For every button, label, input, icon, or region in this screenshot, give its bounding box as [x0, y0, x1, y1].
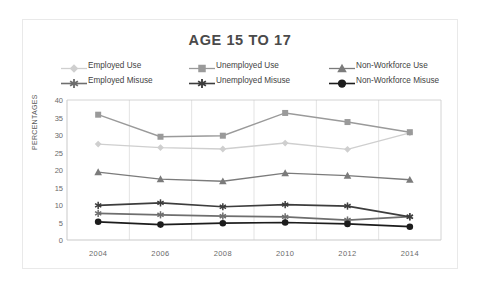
legend-item-unemployed-misuse[interactable]: Unemployed Misuse: [189, 73, 329, 88]
legend-item-employed-misuse[interactable]: Employed Misuse: [39, 73, 189, 88]
y-axis-tick-label: 0: [41, 236, 63, 245]
chart-legend: Employed Use Unemployed Use Non-Workforc…: [39, 58, 443, 88]
legend-item-non-workforce-misuse[interactable]: Non-Workforce Misuse: [329, 73, 443, 88]
y-axis-tick-label: 35: [41, 113, 63, 122]
y-axis-tick-label: 15: [41, 183, 63, 192]
legend-label: Employed Misuse: [87, 76, 153, 85]
x-axis-tick-label: 2006: [151, 249, 169, 258]
legend-label: Employed Use: [87, 61, 141, 70]
y-axis-tick-label: 40: [41, 96, 63, 105]
y-axis-tick-label: 30: [41, 131, 63, 140]
chart-svg: [23, 92, 459, 270]
legend-label: Non-Workforce Use: [355, 61, 428, 70]
legend-label: Unemployed Misuse: [215, 76, 290, 85]
legend-item-unemployed-use[interactable]: Unemployed Use: [189, 58, 329, 73]
y-axis-tick-label: 20: [41, 166, 63, 175]
legend-key-asterisk-icon: [61, 75, 87, 86]
y-axis-tick-label: 5: [41, 218, 63, 227]
x-axis-tick-label: 2008: [214, 249, 232, 258]
plot-area: PERCENTAGES 0510152025303540200420062008…: [23, 92, 459, 270]
chart-title: AGE 15 TO 17: [23, 32, 457, 48]
legend-key-circle-icon: [329, 75, 355, 86]
x-axis-tick-label: 2010: [276, 249, 294, 258]
legend-row: Employed Use Unemployed Use Non-Workforc…: [39, 58, 443, 73]
x-axis-tick-label: 2012: [338, 249, 356, 258]
legend-label: Unemployed Use: [215, 61, 279, 70]
legend-key-triangle-icon: [329, 60, 355, 71]
y-axis-tick-label: 10: [41, 201, 63, 210]
legend-item-employed-use[interactable]: Employed Use: [39, 58, 189, 73]
x-axis-tick-label: 2004: [89, 249, 107, 258]
legend-key-asterisk-icon: [189, 75, 215, 86]
legend-key-square-icon: [189, 60, 215, 71]
chart-card: AGE 15 TO 17 Employed Use Unemployed Use…: [22, 19, 458, 269]
y-axis-tick-label: 25: [41, 148, 63, 157]
legend-item-non-workforce-use[interactable]: Non-Workforce Use: [329, 58, 443, 73]
x-axis-tick-label: 2014: [401, 249, 419, 258]
legend-label: Non-Workforce Misuse: [355, 76, 439, 85]
legend-key-diamond-icon: [61, 60, 87, 71]
legend-row: Employed Misuse Unemployed Misuse Non-Wo…: [39, 73, 443, 88]
